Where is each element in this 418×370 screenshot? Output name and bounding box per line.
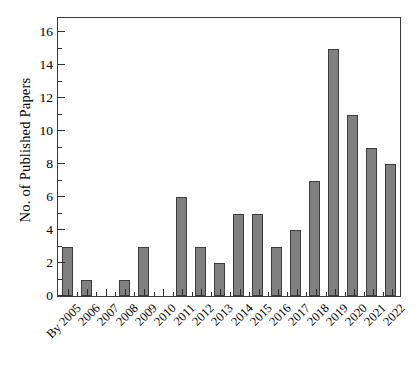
x-axis-minor-tick (364, 292, 365, 296)
bar-category (134, 18, 153, 296)
x-axis-tick (106, 289, 107, 296)
y-axis-tick (58, 130, 65, 131)
y-axis-minor-tick (58, 180, 62, 181)
y-axis-minor-tick (58, 114, 62, 115)
bar-category (58, 18, 77, 296)
x-axis-minor-tick (287, 292, 288, 296)
bar (252, 214, 264, 296)
y-axis-tick (58, 97, 65, 98)
x-axis-minor-tick (154, 292, 155, 296)
bar-category (248, 18, 267, 296)
bar (176, 197, 188, 296)
x-axis-tick (259, 289, 260, 296)
x-axis-tick (125, 289, 126, 296)
y-axis-minor-tick (58, 147, 62, 148)
y-axis-tick-label: 2 (46, 255, 53, 271)
bar (290, 230, 302, 296)
x-axis-minor-tick (77, 292, 78, 296)
y-axis-title: No. of Published Papers (14, 0, 36, 300)
bar-category (172, 18, 191, 296)
bar (328, 49, 340, 296)
y-axis-tick (58, 229, 65, 230)
bar (347, 115, 359, 296)
y-axis-tick-label: 14 (40, 57, 54, 73)
x-axis-minor-tick (115, 292, 116, 296)
x-axis-tick (354, 289, 355, 296)
bar (233, 214, 245, 296)
y-axis-tick (58, 163, 65, 164)
x-axis-tick (240, 289, 241, 296)
y-axis-tick-label: 6 (46, 189, 53, 205)
x-axis-minor-tick (211, 292, 212, 296)
bar-category (362, 18, 381, 296)
x-axis-minor-tick (96, 292, 97, 296)
x-axis-minor-tick (134, 292, 135, 296)
bar-category (305, 18, 324, 296)
bar-category (229, 18, 248, 296)
y-axis-tick (58, 196, 65, 197)
x-axis-tick-label: 2022 (381, 301, 409, 329)
y-axis-tick (58, 262, 65, 263)
y-axis-tick (58, 31, 65, 32)
x-axis-tick (68, 289, 69, 296)
x-axis-tick (335, 289, 336, 296)
y-axis-minor-tick (58, 246, 62, 247)
y-axis-tick-label: 10 (40, 123, 54, 139)
x-axis-minor-tick (230, 292, 231, 296)
bar (271, 247, 283, 296)
bar (385, 164, 397, 296)
x-axis-minor-tick (383, 292, 384, 296)
x-axis-minor-tick (249, 292, 250, 296)
x-axis-tick (373, 289, 374, 296)
bar-category (286, 18, 305, 296)
x-axis-tick (392, 289, 393, 296)
bar-category (381, 18, 400, 296)
bar-series (58, 18, 400, 296)
bar-category (324, 18, 343, 296)
bar (366, 148, 378, 296)
plot-area: 0246810121416 (57, 17, 401, 297)
y-axis-tick-label: 16 (40, 24, 54, 40)
bar-category (343, 18, 362, 296)
x-axis-minor-tick (268, 292, 269, 296)
y-axis-tick-label: 12 (40, 90, 54, 106)
x-axis-tick (297, 289, 298, 296)
bar-category (267, 18, 286, 296)
x-axis-minor-tick (173, 292, 174, 296)
y-axis-tick (58, 64, 65, 65)
bar-category (191, 18, 210, 296)
x-axis-tick (278, 289, 279, 296)
x-axis-tick (144, 289, 145, 296)
x-axis-minor-tick (345, 292, 346, 296)
bar (309, 181, 321, 296)
y-axis-tick-label: 4 (46, 222, 53, 238)
x-axis-tick (87, 289, 88, 296)
x-axis-minor-tick (192, 292, 193, 296)
bar-chart-figure: No. of Published Papers 0246810121416 By… (0, 0, 418, 370)
y-axis-tick (58, 295, 65, 296)
x-axis-tick-labels: By 2005200620072008200920102011201220132… (57, 297, 401, 367)
y-axis-minor-tick (58, 213, 62, 214)
x-axis-tick (182, 289, 183, 296)
x-axis-tick (163, 289, 164, 296)
x-axis-minor-tick (326, 292, 327, 296)
y-axis-tick-label: 0 (46, 288, 53, 304)
bar-category (96, 18, 115, 296)
bar-category (153, 18, 172, 296)
bar-category (77, 18, 96, 296)
bar-category (115, 18, 134, 296)
x-axis-tick (316, 289, 317, 296)
x-axis-tick (220, 289, 221, 296)
y-axis-minor-tick (58, 279, 62, 280)
y-axis-minor-tick (58, 81, 62, 82)
x-axis-minor-tick (306, 292, 307, 296)
bar-category (210, 18, 229, 296)
y-axis-minor-tick (58, 48, 62, 49)
y-axis-tick-label: 8 (46, 156, 53, 172)
x-axis-tick (201, 289, 202, 296)
